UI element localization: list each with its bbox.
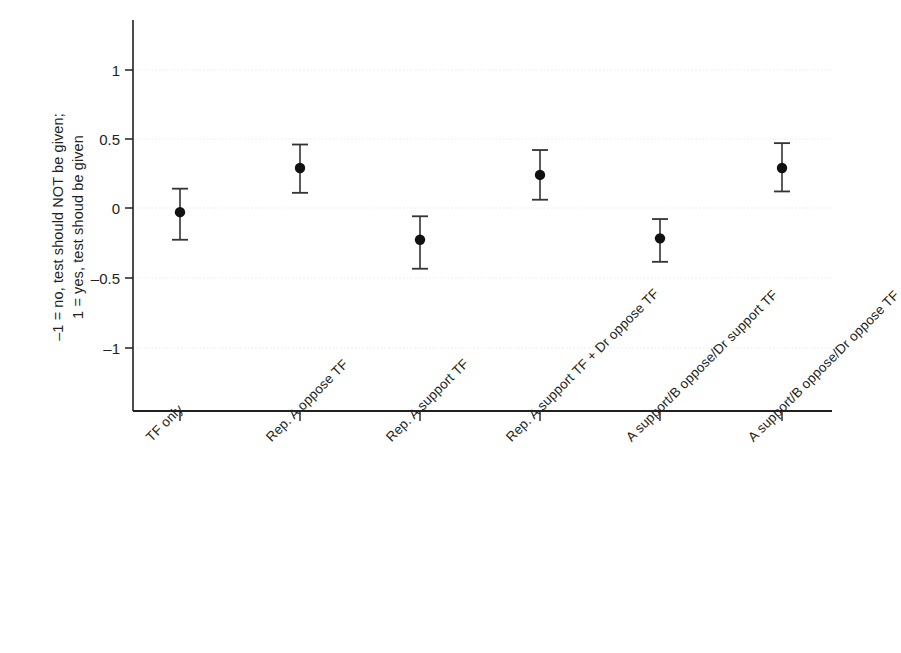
y-axis-ticks: [125, 70, 133, 348]
data-point-marker: [175, 207, 185, 217]
data-point-marker: [295, 163, 305, 173]
data-point-group: [774, 143, 790, 191]
data-point-group: [172, 189, 188, 240]
grid-lines: [133, 70, 832, 348]
data-point-group: [292, 145, 308, 193]
data-point-marker: [535, 170, 545, 180]
x-axis-ticks: [180, 411, 782, 421]
data-series-group: [172, 143, 790, 269]
data-point-marker: [415, 235, 425, 245]
data-point-group: [412, 216, 428, 268]
data-point-group: [652, 219, 668, 262]
data-point-group: [532, 150, 548, 200]
data-point-marker: [655, 233, 665, 243]
data-point-marker: [777, 163, 787, 173]
